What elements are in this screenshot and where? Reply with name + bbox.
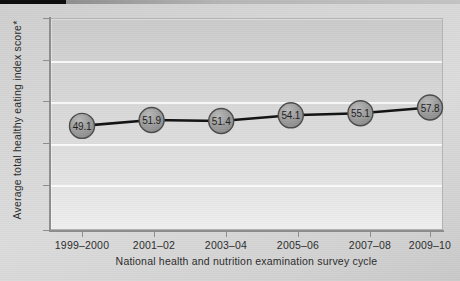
y-tick-0 <box>43 230 50 231</box>
data-point-label: 54.1 <box>281 110 300 121</box>
data-point-label: 51.9 <box>142 115 161 126</box>
data-point-label: 57.8 <box>421 102 440 113</box>
y-tick-20 <box>43 185 50 186</box>
x-tick-3 <box>298 231 299 237</box>
top-black-band <box>0 0 66 4</box>
chart-figure: 100 80 60 40 20 0 1999–2000 2001–02 2003… <box>0 0 460 281</box>
x-axis-line <box>49 230 444 232</box>
gridline-40 <box>51 144 442 146</box>
top-gray-band <box>66 0 460 4</box>
x-tick-label-2005-06: 2005–06 <box>277 239 319 251</box>
x-tick-label-2001-02: 2001–02 <box>133 239 175 251</box>
y-tick-80 <box>43 60 50 61</box>
y-axis-line <box>49 17 51 232</box>
y-axis-title: Average total healthy eating index score… <box>11 12 23 228</box>
data-point-label: 51.4 <box>212 116 231 127</box>
x-tick-2 <box>226 231 227 237</box>
gridline-20 <box>51 185 442 187</box>
x-tick-5 <box>430 231 431 237</box>
y-tick-40 <box>43 143 50 144</box>
plot-area <box>50 18 443 230</box>
x-tick-label-2003-04: 2003–04 <box>205 239 247 251</box>
data-point-label: 49.1 <box>73 120 92 131</box>
x-tick-0 <box>82 231 83 237</box>
x-tick-label-2009-10: 2009–10 <box>409 239 451 251</box>
x-tick-label-2007-08: 2007–08 <box>349 239 391 251</box>
gridline-80 <box>51 61 442 63</box>
x-tick-4 <box>370 231 371 237</box>
x-axis-title: National health and nutrition examinatio… <box>50 255 443 267</box>
y-tick-60 <box>43 101 50 102</box>
data-point-label: 55.1 <box>351 108 370 119</box>
gridline-60 <box>51 102 442 104</box>
y-tick-100 <box>43 18 50 19</box>
x-tick-label-1999-2000: 1999–2000 <box>55 239 109 251</box>
x-tick-1 <box>154 231 155 237</box>
